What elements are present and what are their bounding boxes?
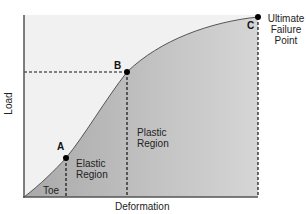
point-b-marker [124,69,130,75]
failure-label-line3: Point [266,35,306,46]
y-axis-label: Load [3,92,14,114]
failure-label-line2: Failure [266,24,306,35]
plastic-label-line1: Plastic [137,127,166,138]
point-c-marker [255,14,261,20]
point-b-label: B [114,60,121,71]
point-a-marker [63,155,69,161]
elastic-label-line1: Elastic [76,158,105,169]
stress-strain-diagram [0,0,306,214]
point-c-label: C [247,20,254,31]
elastic-label-line2: Region [76,169,108,180]
plastic-label-line2: Region [137,138,169,149]
x-axis-label: Deformation [115,201,169,212]
toe-label: Toe [43,185,59,196]
failure-label-line1: Ultimate [266,13,306,24]
point-a-label: A [57,141,64,152]
